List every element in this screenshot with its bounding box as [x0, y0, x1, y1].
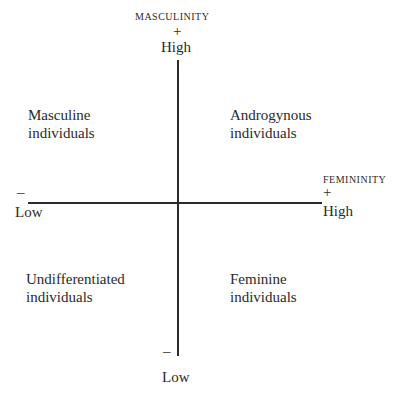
quadrant-feminine: Feminine individuals [230, 270, 297, 306]
masculinity-axis-title: MASCULINITY [135, 11, 209, 22]
femininity-high-sign: + [323, 184, 331, 201]
quadrant-androgynous-line2: individuals [230, 124, 312, 142]
quadrant-undifferentiated-line1: Undifferentiated [26, 270, 125, 288]
quadrant-androgynous-line1: Androgynous [230, 106, 312, 124]
femininity-high-label: High [323, 203, 353, 220]
masculinity-low-sign: – [163, 343, 171, 360]
femininity-low-sign: – [17, 184, 25, 201]
masculinity-high-label: High [161, 39, 191, 56]
masculinity-high-sign: + [173, 23, 181, 40]
quadrant-feminine-line1: Feminine [230, 270, 297, 288]
quadrant-masculine: Masculine individuals [28, 106, 95, 142]
quadrant-undifferentiated-line2: individuals [26, 288, 125, 306]
horizontal-axis-line [28, 202, 322, 204]
quadrant-feminine-line2: individuals [230, 288, 297, 306]
femininity-axis-title: FEMININITY [323, 174, 386, 185]
quadrant-masculine-line1: Masculine [28, 106, 95, 124]
quadrant-undifferentiated: Undifferentiated individuals [26, 270, 125, 306]
quadrant-masculine-line2: individuals [28, 124, 95, 142]
vertical-axis-line [177, 60, 179, 356]
femininity-low-label: Low [15, 204, 43, 221]
masculinity-low-label: Low [162, 369, 190, 386]
quadrant-androgynous: Androgynous individuals [230, 106, 312, 142]
